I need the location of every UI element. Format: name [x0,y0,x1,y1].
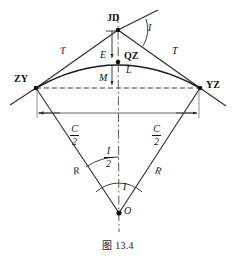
curve-diagram [0,0,236,257]
angle-half-numerator: I [106,146,111,156]
point-marker-yz [198,86,203,91]
chord-half-right-numerator: C [152,124,161,134]
point-marker-jd [116,28,121,33]
tangent-forward-extension [118,10,158,30]
point-marker-o [116,210,121,215]
chord-half-left-label: C 2 [70,124,79,147]
angle-i-label-bottom: I [123,182,126,192]
radius-line-right [119,88,200,213]
point-marker-qz [116,60,121,65]
angle-half-label: I 2 [104,146,113,169]
mid-ordinate-label: M [99,73,107,83]
tangent-extension-right [200,88,226,106]
chord-half-right-denominator: 2 [153,137,160,147]
point-label-qz: QZ [124,51,138,61]
point-label-jd: JD [107,13,119,23]
point-label-o: O [124,206,131,216]
external-distance-label: E [100,50,106,60]
angle-i-half-arc [86,157,119,167]
tangent-label-left: T [59,46,66,57]
point-label-zy: ZY [14,74,28,84]
figure-root: JD ZY YZ QZ O T T E M L R R I I C 2 C 2 … [0,0,236,257]
tangent-extension-left [10,88,36,105]
point-marker-zy [34,86,39,91]
curve-length-label: L [126,65,132,75]
angle-i-label-top: I [148,23,151,33]
chord-half-left-numerator: C [70,124,79,134]
angle-half-denominator: 2 [105,159,112,169]
center-axis [118,14,119,232]
chord-half-left-denominator: 2 [71,137,78,147]
angle-i-arc-top [143,19,148,46]
chord-half-right-label: C 2 [152,124,161,147]
tangent-label-right: T [172,46,178,56]
figure-caption: 图 13.4 [0,237,236,252]
point-label-yz: YZ [206,80,220,90]
